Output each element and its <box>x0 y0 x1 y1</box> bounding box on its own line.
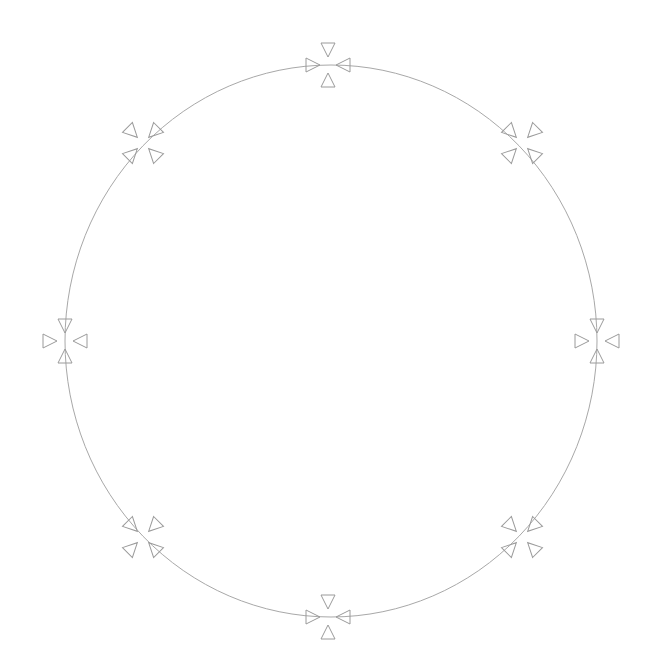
circle-diagram <box>0 0 651 668</box>
triangle-icon <box>321 73 335 87</box>
marker-top-left <box>112 112 174 174</box>
circle-outline <box>65 65 597 617</box>
triangle-icon <box>523 516 543 536</box>
triangle-icon <box>321 595 335 609</box>
marker-bottom-left <box>112 506 174 568</box>
triangle-icon <box>144 122 164 142</box>
triangle-icon <box>122 144 142 164</box>
marker-top-right <box>491 112 553 174</box>
triangle-icon <box>321 625 335 639</box>
triangle-icon <box>122 516 142 536</box>
triangle-icon <box>523 538 543 558</box>
triangle-icon <box>73 334 87 348</box>
triangle-icon <box>122 122 142 142</box>
triangle-icon <box>321 43 335 57</box>
marker-bottom-right <box>491 506 553 568</box>
triangle-icon <box>144 144 164 164</box>
triangle-icon <box>43 334 57 348</box>
triangle-icon <box>144 516 164 536</box>
triangle-icon <box>523 122 543 142</box>
marker-group <box>43 43 619 639</box>
triangle-icon <box>501 538 521 558</box>
triangle-icon <box>122 538 142 558</box>
triangle-icon <box>575 334 589 348</box>
triangle-icon <box>605 334 619 348</box>
triangle-icon <box>501 144 521 164</box>
triangle-icon <box>501 516 521 536</box>
